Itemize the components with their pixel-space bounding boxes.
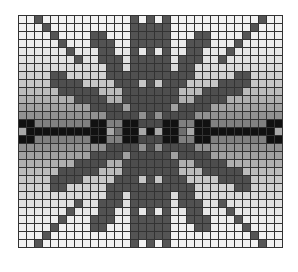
grid-cell <box>267 112 275 120</box>
grid-cell <box>99 128 107 136</box>
grid-cell <box>67 168 75 176</box>
grid-cell <box>155 152 163 160</box>
grid-cell <box>187 64 195 72</box>
grid-cell <box>203 152 211 160</box>
grid-cell <box>179 168 187 176</box>
grid-cell <box>139 88 147 96</box>
grid-cell <box>275 32 283 40</box>
grid-cell <box>163 224 171 232</box>
grid-cell <box>75 96 83 104</box>
grid-cell <box>115 152 123 160</box>
grid-cell <box>67 216 75 224</box>
grid-cell <box>83 120 91 128</box>
grid-cell <box>147 152 155 160</box>
grid-cell <box>67 96 75 104</box>
grid-cell <box>35 232 43 240</box>
grid-cell <box>251 200 259 208</box>
grid-cell <box>171 40 179 48</box>
grid-cell <box>243 232 251 240</box>
grid-cell <box>19 80 27 88</box>
grid-cell <box>243 216 251 224</box>
grid-cell <box>275 128 283 136</box>
grid-cell <box>107 232 115 240</box>
grid-cell <box>155 232 163 240</box>
grid-cell <box>203 88 211 96</box>
grid-cell <box>275 160 283 168</box>
grid-cell <box>91 56 99 64</box>
grid-cell <box>59 216 67 224</box>
grid-cell <box>203 120 211 128</box>
grid-cell <box>51 48 59 56</box>
grid-cell <box>43 40 51 48</box>
grid-cell <box>123 96 131 104</box>
grid-cell <box>251 136 259 144</box>
grid-cell <box>227 56 235 64</box>
grid-cell <box>27 240 35 248</box>
grid-cell <box>131 112 139 120</box>
grid-cell <box>251 80 259 88</box>
grid-cell <box>251 128 259 136</box>
grid-cell <box>179 72 187 80</box>
grid-cell <box>35 224 43 232</box>
grid-cell <box>67 232 75 240</box>
grid-cell <box>171 80 179 88</box>
grid-cell <box>123 208 131 216</box>
grid-cell <box>59 152 67 160</box>
grid-cell <box>67 112 75 120</box>
grid-cell <box>19 32 27 40</box>
grid-cell <box>99 200 107 208</box>
grid-cell <box>27 88 35 96</box>
grid-cell <box>59 56 67 64</box>
grid-cell <box>171 64 179 72</box>
grid-cell <box>99 96 107 104</box>
grid-cell <box>203 80 211 88</box>
grid-cell <box>155 48 163 56</box>
grid-cell <box>267 136 275 144</box>
grid-cell <box>43 136 51 144</box>
grid-cell <box>187 200 195 208</box>
grid-cell <box>235 144 243 152</box>
grid-cell <box>83 144 91 152</box>
grid-cell <box>27 184 35 192</box>
grid-cell <box>227 160 235 168</box>
grid-cell <box>59 88 67 96</box>
grid-cell <box>251 104 259 112</box>
grid-cell <box>251 24 259 32</box>
grid-cell <box>227 120 235 128</box>
grid-cell <box>195 56 203 64</box>
grid-cell <box>27 72 35 80</box>
grid-cell <box>131 24 139 32</box>
grid-cell <box>227 72 235 80</box>
grid-cell <box>99 72 107 80</box>
grid-cell <box>99 208 107 216</box>
grid-cell <box>267 128 275 136</box>
grid-cell <box>219 208 227 216</box>
grid-cell <box>155 176 163 184</box>
grid-cell <box>83 128 91 136</box>
grid-cell <box>203 72 211 80</box>
grid-cell <box>59 40 67 48</box>
grid-cell <box>163 176 171 184</box>
grid-cell <box>147 112 155 120</box>
grid-cell <box>75 200 83 208</box>
grid-cell <box>91 24 99 32</box>
grid-cell <box>163 72 171 80</box>
grid-cell <box>155 160 163 168</box>
grid-cell <box>171 96 179 104</box>
grid-cell <box>59 208 67 216</box>
grid-cell <box>51 168 59 176</box>
grid-cell <box>203 136 211 144</box>
grid-cell <box>227 232 235 240</box>
grid-cell <box>67 88 75 96</box>
grid-cell <box>99 160 107 168</box>
grid-cell <box>219 40 227 48</box>
grid-cell <box>83 192 91 200</box>
grid-cell <box>155 104 163 112</box>
grid-cell <box>107 200 115 208</box>
grid-cell <box>139 40 147 48</box>
grid-cell <box>19 224 27 232</box>
grid-cell <box>43 216 51 224</box>
grid-cell <box>99 88 107 96</box>
grid-cell <box>275 16 283 24</box>
grid-cell <box>155 40 163 48</box>
